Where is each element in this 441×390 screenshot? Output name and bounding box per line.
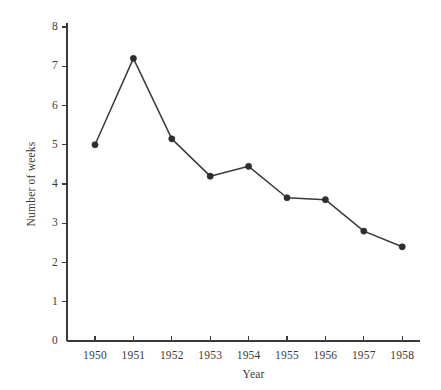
x-axis-tick-label: 1951	[121, 350, 145, 362]
line-chart: 012345678 195019511952195319541955195619…	[0, 0, 441, 390]
data-point	[207, 173, 213, 179]
y-axis-tick-label: 7	[52, 61, 58, 73]
data-point	[92, 142, 98, 148]
x-axis-tick-label: 1953	[198, 350, 222, 362]
series-markers	[92, 55, 405, 250]
x-axis-tick-label: 1954	[237, 350, 261, 362]
series-line-path	[95, 58, 402, 246]
y-axis-title: Number of weeks	[25, 142, 37, 227]
x-axis-title: Year	[243, 368, 265, 380]
x-axis-tick-label: 1950	[83, 350, 107, 362]
y-axis-tick-label: 4	[52, 178, 58, 190]
y-axis-tick-label: 6	[52, 100, 58, 112]
y-axis-tick-label: 5	[52, 139, 58, 151]
data-point	[361, 228, 367, 234]
x-axis-tick-label: 1956	[313, 350, 337, 362]
chart-plot-area	[0, 0, 441, 390]
data-point	[246, 163, 252, 169]
y-axis-tick-label: 2	[52, 257, 58, 269]
data-point	[284, 195, 290, 201]
data-point	[169, 136, 175, 142]
y-axis-tick-label: 1	[52, 296, 58, 308]
y-axis-tick-label: 3	[52, 218, 58, 230]
x-axis-tick-label: 1958	[390, 350, 414, 362]
data-point	[322, 197, 328, 203]
data-point	[130, 55, 136, 61]
x-axis-tick-label: 1955	[275, 350, 299, 362]
y-axis-tick-label: 8	[52, 21, 58, 33]
x-axis-tick-label: 1957	[352, 350, 376, 362]
x-axis-tick-label: 1952	[160, 350, 184, 362]
y-axis-tick-label: 0	[52, 335, 58, 347]
data-series-number-of-weeks	[92, 55, 405, 250]
data-point	[399, 244, 405, 250]
chart-axes	[67, 23, 420, 341]
